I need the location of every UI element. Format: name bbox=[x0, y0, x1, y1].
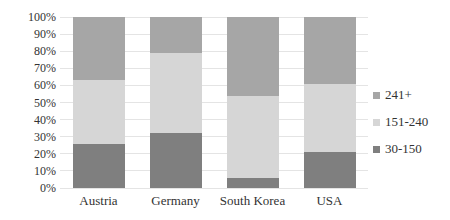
legend-label: 30-150 bbox=[385, 142, 422, 156]
y-tick-label: 60% bbox=[0, 78, 56, 92]
bar-austria bbox=[73, 17, 125, 188]
y-tick-label: 30% bbox=[0, 130, 56, 144]
bar-segment-151-240 bbox=[150, 53, 202, 133]
y-tick-label: 100% bbox=[0, 10, 56, 24]
legend-item: 30-150 bbox=[373, 142, 428, 156]
bar-segment-151-240 bbox=[227, 96, 279, 178]
legend-item: 241+ bbox=[373, 88, 428, 102]
bar-segment-30-150 bbox=[304, 152, 356, 188]
legend: 241+151-24030-150 bbox=[373, 88, 428, 169]
y-tick-label: 20% bbox=[0, 147, 56, 161]
y-tick-label: 90% bbox=[0, 27, 56, 41]
legend-swatch-icon bbox=[373, 146, 380, 153]
bar-segment-241plus bbox=[227, 17, 279, 96]
legend-item: 151-240 bbox=[373, 115, 428, 129]
category-label: USA bbox=[291, 193, 368, 209]
y-tick-label: 0% bbox=[0, 181, 56, 195]
category-label: Germany bbox=[137, 193, 214, 209]
legend-label: 241+ bbox=[385, 88, 412, 102]
bar-segment-151-240 bbox=[73, 80, 125, 143]
category-label: South Korea bbox=[214, 193, 291, 209]
y-tick-label: 70% bbox=[0, 61, 56, 75]
bar-segment-241plus bbox=[73, 17, 125, 80]
bar-south-korea bbox=[227, 17, 279, 188]
bar-segment-151-240 bbox=[304, 84, 356, 152]
legend-swatch-icon bbox=[373, 92, 380, 99]
legend-swatch-icon bbox=[373, 119, 380, 126]
bar-germany bbox=[150, 17, 202, 188]
bar-segment-241plus bbox=[150, 17, 202, 53]
y-tick-label: 40% bbox=[0, 113, 56, 127]
category-label: Austria bbox=[60, 193, 137, 209]
bar-segment-241plus bbox=[304, 17, 356, 84]
bar-segment-30-150 bbox=[227, 178, 279, 188]
y-tick-label: 50% bbox=[0, 96, 56, 110]
bar-segment-30-150 bbox=[150, 133, 202, 188]
y-tick-label: 80% bbox=[0, 44, 56, 58]
legend-label: 151-240 bbox=[385, 115, 428, 129]
stacked-bar-chart: 0%10%20%30%40%50%60%70%80%90%100% Austri… bbox=[0, 0, 450, 220]
y-tick-label: 10% bbox=[0, 164, 56, 178]
bar-segment-30-150 bbox=[73, 144, 125, 188]
bar-usa bbox=[304, 17, 356, 188]
